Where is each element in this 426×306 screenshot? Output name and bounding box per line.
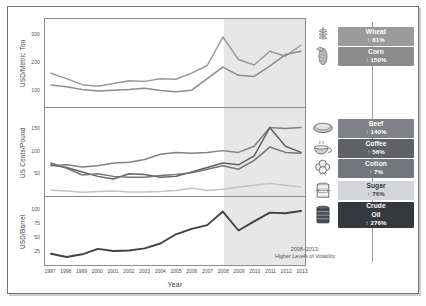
- legend-chip-sugar[interactable]: Sugar↑ 76%: [338, 181, 414, 200]
- x-tick: 1997: [44, 268, 55, 274]
- x-tick: 2012: [281, 268, 292, 274]
- y-tick-labels-bot: 255075100: [22, 196, 40, 266]
- legend-chip-coffee[interactable]: Coffee↑ 56%: [338, 139, 414, 158]
- y-tick: 200: [31, 59, 40, 65]
- legend-chip-wheat[interactable]: Wheat↑ 81%: [338, 27, 414, 46]
- legend-change-percent: ↑ 150%: [365, 56, 386, 64]
- legend-commodity-name: Crude: [366, 202, 386, 210]
- panel-softs: [44, 107, 306, 197]
- y-tick: 300: [31, 31, 40, 37]
- y-tick: 100: [31, 206, 40, 212]
- legend-item-crude-oil[interactable]: CrudeOil↑ 276%: [310, 202, 414, 228]
- x-tick: 2013: [296, 268, 307, 274]
- x-axis-ticks: 1997199819992000200120022003200420052006…: [44, 268, 306, 280]
- series-line-sugar: [51, 183, 301, 192]
- y-tick: 75: [34, 220, 40, 226]
- legend-commodity-name-2: Oil: [371, 211, 380, 219]
- legend-chip-beef[interactable]: Beef↑ 140%: [338, 119, 414, 138]
- panel-top-lines: [45, 19, 305, 107]
- legend-commodity-name: Sugar: [366, 182, 385, 190]
- sugar-icon: [310, 178, 336, 202]
- legend-change-percent: ↑ 7%: [369, 168, 383, 176]
- x-tick: 2002: [123, 268, 134, 274]
- legend-chip-cotton[interactable]: Cotton↑ 7%: [338, 159, 414, 178]
- x-tick: 2001: [107, 268, 118, 274]
- series-line-beef: [51, 128, 301, 168]
- y-tick-labels-top: 100200300: [22, 18, 40, 108]
- y-tick: 50: [34, 170, 40, 176]
- legend-chip-crude-oil[interactable]: CrudeOil↑ 276%: [338, 202, 414, 228]
- oil-barrel-icon: [310, 203, 336, 227]
- legend-commodity-name: Cotton: [365, 160, 387, 168]
- legend-change-percent: ↑ 76%: [367, 190, 385, 198]
- plot-panels: [44, 18, 306, 266]
- y-tick-labels-mid: 50100150: [22, 107, 40, 197]
- x-tick: 1998: [60, 268, 71, 274]
- x-tick: 2006: [186, 268, 197, 274]
- series-line-cotton: [51, 147, 301, 177]
- legend-commodity-name: Wheat: [366, 28, 386, 36]
- x-tick: 2004: [155, 268, 166, 274]
- x-tick: 2005: [170, 268, 181, 274]
- y-tick: 25: [34, 248, 40, 254]
- legend-panel: Wheat↑ 81%Corn↑ 150%Beef↑ 140%Coffee↑ 56…: [310, 18, 414, 266]
- corn-icon: [310, 44, 336, 68]
- legend-chip-corn[interactable]: Corn↑ 150%: [338, 47, 414, 66]
- x-tick: 1999: [76, 268, 87, 274]
- x-tick: 2010: [249, 268, 260, 274]
- x-tick: 2003: [139, 268, 150, 274]
- series-line-wheat: [51, 37, 301, 86]
- panel-grains: [44, 18, 306, 108]
- y-tick: 100: [31, 148, 40, 154]
- legend-item-corn[interactable]: Corn↑ 150%: [310, 44, 414, 68]
- x-tick: 2000: [92, 268, 103, 274]
- legend-item-cotton[interactable]: Cotton↑ 7%: [310, 156, 414, 180]
- x-axis-title: Year: [44, 281, 306, 288]
- legend-change-percent: ↑ 276%: [365, 219, 386, 227]
- legend-commodity-name: Beef: [369, 120, 384, 128]
- x-tick: 2011: [265, 268, 276, 274]
- x-tick: 2007: [202, 268, 213, 274]
- cotton-icon: [310, 156, 336, 180]
- y-tick: 100: [31, 87, 40, 93]
- legend-commodity-name: Corn: [368, 48, 384, 56]
- x-tick: 2008: [218, 268, 229, 274]
- y-tick: 50: [34, 234, 40, 240]
- legend-commodity-name: Coffee: [365, 140, 386, 148]
- panel-mid-lines: [45, 108, 305, 196]
- x-tick: 2009: [233, 268, 244, 274]
- legend-item-sugar[interactable]: Sugar↑ 76%: [310, 178, 414, 202]
- y-tick: 150: [31, 125, 40, 131]
- chart-figure: USD/Metric Ton US Cents/Pound USD/Barrel…: [0, 0, 426, 306]
